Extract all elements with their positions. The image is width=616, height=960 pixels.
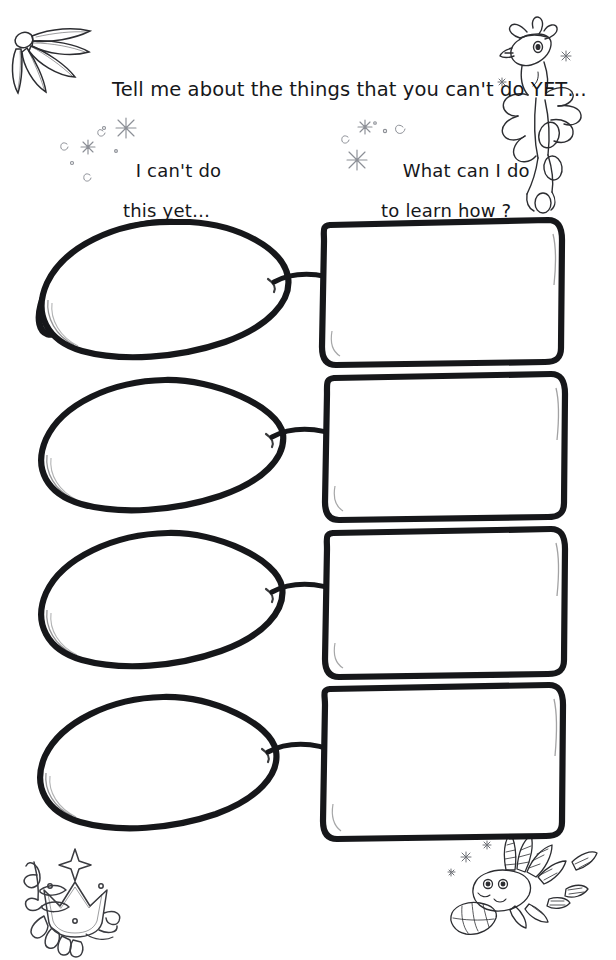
- left-column-heading: I can't do this yet…: [112, 141, 221, 262]
- answer-box-4[interactable]: [323, 685, 563, 839]
- worksheet-page: Tell me about the things that you can't …: [0, 0, 616, 960]
- row-2: [41, 374, 565, 520]
- answer-box-2[interactable]: [325, 374, 565, 520]
- lionfish-creature-decoration: [448, 833, 597, 934]
- idea-oval-4[interactable]: [40, 697, 276, 828]
- left-heading-line-1: I can't do: [136, 160, 222, 181]
- idea-oval-3[interactable]: [41, 533, 282, 666]
- idea-oval-2[interactable]: [41, 380, 283, 510]
- crown-decoration: [24, 849, 119, 957]
- worksheet-title: Tell me about the things that you can't …: [112, 79, 587, 101]
- leaf-frond-decoration: [12, 29, 90, 93]
- row-3: [41, 529, 565, 677]
- row-4: [40, 685, 563, 839]
- right-column-heading: What can I do to learn how ?: [379, 141, 530, 262]
- right-heading-line-2: to learn how ?: [379, 201, 530, 221]
- left-heading-line-2: this yet…: [112, 201, 221, 221]
- right-heading-line-1: What can I do: [403, 160, 530, 181]
- answer-box-3[interactable]: [325, 529, 565, 677]
